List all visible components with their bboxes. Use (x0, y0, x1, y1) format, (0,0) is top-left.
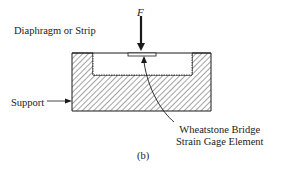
force-label: F (137, 6, 144, 18)
support-label: Support (11, 97, 44, 109)
strain-gage-label: Wheatstone Bridge Strain Gage Element (176, 124, 263, 148)
strain-gage-label-line1: Wheatstone Bridge (176, 124, 263, 136)
figure-caption: (b) (137, 150, 149, 162)
strain-gage-label-line2: Strain Gage Element (176, 136, 263, 148)
strain-gage-element (128, 53, 156, 56)
diaphragm-label: Diaphragm or Strip (14, 25, 96, 37)
force-arrow-icon (137, 16, 145, 51)
support-leader-arrow-icon (47, 99, 72, 104)
